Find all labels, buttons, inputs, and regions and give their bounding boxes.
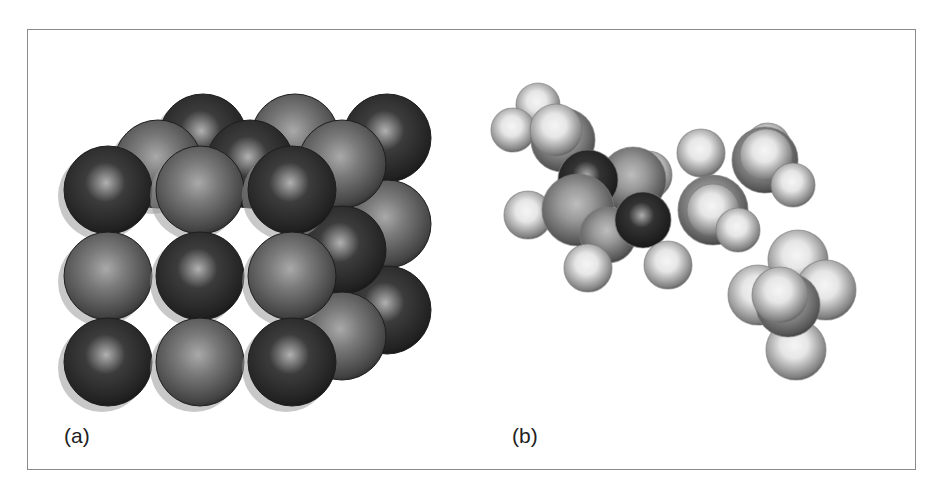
hydrogen-atom — [716, 208, 760, 252]
hydrogen-atom — [644, 241, 692, 289]
ion-sphere — [64, 232, 152, 320]
panel-a-label: (a) — [64, 424, 90, 448]
ion-sphere — [156, 232, 244, 320]
ion-sphere — [156, 318, 244, 406]
ionic-lattice-model — [28, 30, 468, 471]
ion-sphere — [64, 318, 152, 406]
hydrogen-atom — [752, 267, 808, 323]
molecule-model — [468, 30, 917, 471]
ion-sphere — [64, 146, 152, 234]
hydrogen-atom — [677, 129, 725, 177]
hydrogen-atom — [530, 104, 582, 156]
figure-frame: (a) (b) — [27, 29, 916, 470]
hydrogen-atom — [564, 244, 612, 292]
panel-b: (b) — [468, 30, 917, 469]
hydrogen-atom — [491, 108, 535, 152]
panel-b-label: (b) — [512, 424, 538, 448]
ion-sphere — [156, 146, 244, 234]
hydrogen-atom — [771, 163, 815, 207]
ion-sphere — [248, 232, 336, 320]
ion-sphere — [248, 318, 336, 406]
ion-sphere — [248, 146, 336, 234]
panel-a: (a) — [28, 30, 468, 469]
heteroatom — [615, 192, 671, 248]
